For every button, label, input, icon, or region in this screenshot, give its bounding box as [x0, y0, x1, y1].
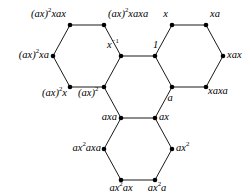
vertex-label: (ax)2xa	[19, 50, 49, 61]
vertex-label: x−1	[107, 40, 119, 51]
vertices-layer	[51, 23, 226, 183]
graph-edge	[104, 56, 121, 87]
vertex-label: ax2a	[148, 183, 167, 194]
graph-vertex	[68, 23, 73, 28]
graph-vertex	[51, 54, 56, 59]
vertex-label: (ax)2x	[42, 88, 67, 99]
graph-vertex	[102, 147, 107, 152]
graph-edge	[104, 149, 121, 180]
vertex-label: ax2ax	[109, 183, 132, 194]
graph-edge	[104, 118, 121, 149]
graph-vertex	[68, 85, 73, 90]
vertex-label: xa	[210, 9, 220, 20]
cayley-graph-canvas	[0, 0, 251, 196]
cayley-graph-figure: (ax)2xax(ax)2xaxa(ax)2xax−1(ax)2x(ax)21x…	[0, 0, 251, 196]
edges-layer	[53, 25, 223, 180]
graph-edge	[206, 56, 223, 87]
graph-vertex	[221, 54, 226, 59]
vertex-label: xax	[227, 50, 242, 61]
graph-vertex	[119, 116, 124, 121]
graph-edge	[53, 56, 70, 87]
vertex-label: 1	[153, 40, 158, 51]
graph-vertex	[102, 85, 107, 90]
graph-edge	[206, 25, 223, 56]
graph-vertex	[102, 23, 107, 28]
graph-vertex	[119, 54, 124, 59]
graph-vertex	[153, 116, 158, 121]
vertex-label: axa	[102, 112, 117, 123]
vertex-label: x	[163, 9, 168, 20]
graph-vertex	[170, 23, 175, 28]
graph-vertex	[204, 23, 209, 28]
graph-edge	[155, 118, 172, 149]
graph-vertex	[170, 147, 175, 152]
graph-edge	[53, 25, 70, 56]
vertex-label: ax	[159, 112, 169, 123]
graph-edge	[155, 56, 172, 87]
vertex-label: (ax)2	[78, 88, 98, 99]
vertex-label: a	[167, 93, 172, 104]
graph-vertex	[170, 85, 175, 90]
vertex-label: ax2axa	[73, 143, 102, 154]
graph-edge	[155, 149, 172, 180]
vertex-label: xaxa	[208, 86, 228, 97]
vertex-label: ax2	[176, 143, 189, 154]
graph-vertex	[153, 54, 158, 59]
vertex-label: (ax)2xax	[31, 9, 66, 20]
vertex-label: (ax)2xaxa	[108, 9, 148, 20]
